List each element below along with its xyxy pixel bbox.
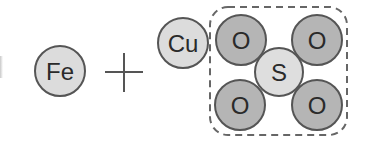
atom-o-top-left: O [216, 15, 266, 65]
atom-o-bottom-left: O [215, 80, 265, 130]
atom-s-label: S [271, 59, 287, 86]
atom-o-bottom-right: O [292, 80, 342, 130]
atom-cu: Cu [158, 18, 208, 68]
atom-fe: Fe [35, 46, 85, 96]
plus-sign-icon [105, 53, 143, 92]
atom-o-label: O [308, 92, 327, 119]
reaction-diagram: Fe Cu O O O O S [0, 0, 366, 141]
atom-s: S [255, 48, 303, 96]
atom-o-top-right: O [292, 15, 342, 65]
atom-fe-label: Fe [46, 58, 74, 85]
atom-o-label: O [232, 27, 251, 54]
atom-o-label: O [231, 92, 250, 119]
atom-cu-label: Cu [168, 30, 199, 57]
atom-o-label: O [308, 27, 327, 54]
